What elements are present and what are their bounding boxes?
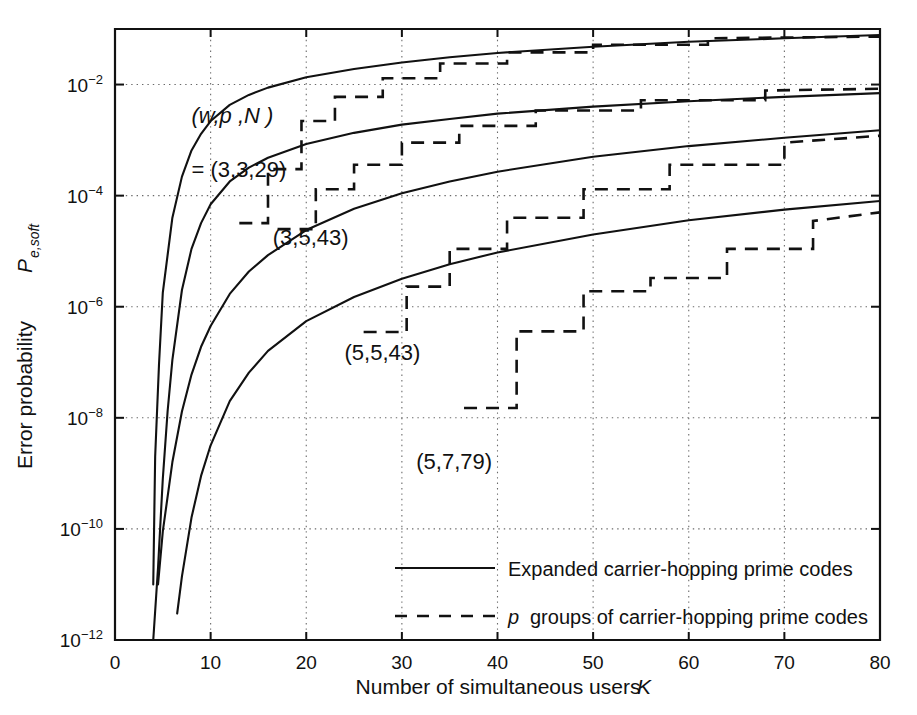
svg-text:Number of simultaneous users: Number of simultaneous users [356, 675, 641, 698]
x-tick-label: 20 [296, 652, 317, 673]
parameter-key-line1: (w,p ,N ) [192, 103, 274, 128]
curve-label-5-5-43: (5,5,43) [345, 340, 421, 365]
x-axis-title-main: Number of simultaneous users [356, 675, 641, 698]
parameter-key-line2: = (3,3,29) [192, 157, 287, 182]
error-probability-chart: 01020304050607080 10−210−410−610−810−101… [0, 0, 917, 715]
x-tick-label: 0 [110, 652, 121, 673]
y-axis-title-symbol: P [13, 259, 36, 273]
curve-label-5-7-79: (5,7,79) [416, 449, 492, 474]
curve-label-3-5-43: (3,5,43) [273, 225, 349, 250]
y-axis-title-main: Error probability [13, 320, 36, 469]
legend-label-dashed: groups of carrier-hopping prime codes [530, 606, 868, 628]
x-tick-label: 40 [487, 652, 508, 673]
x-tick-label: 60 [678, 652, 699, 673]
x-tick-label: 50 [583, 652, 604, 673]
x-axis-title-symbol: K [637, 675, 652, 698]
y-axis-title-subscript: e,soft [26, 223, 42, 258]
x-tick-label: 30 [391, 652, 412, 673]
x-axis-title: Number of simultaneous users K [356, 675, 652, 698]
x-tick-label: 10 [200, 652, 221, 673]
x-tick-label: 70 [774, 652, 795, 673]
x-tick-label: 80 [869, 652, 890, 673]
legend-label-solid: Expanded carrier-hopping prime codes [508, 558, 853, 580]
legend-label-dashed-prefix: p [507, 606, 519, 628]
